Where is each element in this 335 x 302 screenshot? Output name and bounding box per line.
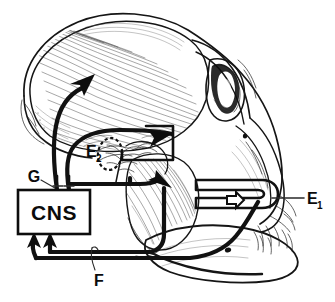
figure-root: CNS G E 2 E 1 F Neural control loop of t… (0, 0, 335, 302)
label-e1-group: E 1 (307, 190, 323, 211)
cns-block-label: CNS (31, 201, 77, 224)
label-g: G (28, 168, 40, 185)
label-e2-group: E 2 (86, 143, 102, 164)
label-f: F (94, 272, 104, 289)
label-e2-subscript: 2 (96, 153, 102, 164)
label-layer: CNS G E 2 E 1 F (0, 0, 335, 302)
label-e1-subscript: 1 (317, 200, 323, 211)
